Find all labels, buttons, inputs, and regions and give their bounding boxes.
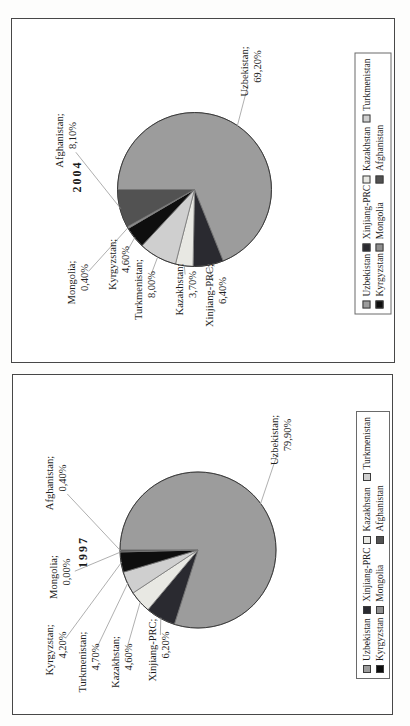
legend-swatch-kazakhstan <box>362 535 370 543</box>
legend-item-afghanistan: Afghanistan <box>374 485 384 543</box>
legend-swatch-turkmenistan <box>363 115 371 123</box>
legend-item-kazakhstan: Kazakhstan <box>362 125 372 183</box>
slice-label-kazakhstan: Kazakhstan;4,60% <box>110 636 135 688</box>
slice-value: 4,70% <box>90 631 103 692</box>
label-leader-line <box>74 551 120 570</box>
slice-label-afghanistan: Afghanistan;0,40% <box>44 455 69 509</box>
legend-label: Afghanistan <box>374 485 384 531</box>
legend: UzbekistanXinjiang-PRCKazakhstanTurkmeni… <box>356 411 390 679</box>
legend-item-mongolia: Mongolia <box>374 547 384 613</box>
legend-label: Mongolia <box>374 564 384 601</box>
legend-item-uzbekistan: Uzbekistan <box>362 253 372 309</box>
slice-label-kazakhstan: Kazakhstan;3,70% <box>174 264 199 316</box>
slice-name: Mongolia; <box>66 261 79 305</box>
slice-label-uzbekistan: Uzbekistan;69,20% <box>239 46 264 96</box>
legend-label: Kyrgyzstan <box>375 253 385 297</box>
legend-swatch-kazakhstan <box>363 175 371 183</box>
legend-item-uzbekistan: Uzbekistan <box>361 617 371 673</box>
legend-label: Uzbekistan <box>362 254 372 297</box>
figure-page: 2004Uzbekistan;69,20%Xinjiang-PRC;6,40%K… <box>0 0 410 726</box>
slice-value: 0,40% <box>79 261 92 305</box>
slice-label-turkmenistan: Turkmenistan;8,00% <box>133 259 158 320</box>
legend-label: Xinjiang-PRC <box>361 547 371 601</box>
slice-value: 3,70% <box>187 264 200 316</box>
chart-canvas: 2004Uzbekistan;69,20%Xinjiang-PRC;6,40%K… <box>11 18 395 363</box>
legend-label: Kazakhstan <box>362 127 372 171</box>
chart-canvas: 1997Uzbekistan;79,90%Xinjiang-PRC;6,20%K… <box>12 374 393 715</box>
legend-label: Afghanistan <box>375 125 385 171</box>
slice-label-kyrgyzstan: Kyrgyzstan;4,20% <box>44 624 69 675</box>
slice-name: Kazakhstan; <box>174 264 187 316</box>
legend-label: Turkmenistan <box>361 417 371 469</box>
legend-swatch-afghanistan <box>375 535 383 543</box>
slice-label-xinjiang-prc: Xinjiang-PRC;6,20% <box>147 618 172 681</box>
legend-swatch-uzbekistan <box>363 301 371 309</box>
slice-value: 69,20% <box>252 46 265 96</box>
slice-label-mongolia: Mongolia;0,00% <box>48 555 73 599</box>
slice-name: Uzbekistan; <box>269 414 282 464</box>
legend-item-afghanistan: Afghanistan <box>375 125 385 183</box>
legend-item-mongolia: Mongolia <box>375 185 385 251</box>
slice-value: 4,60% <box>123 636 136 688</box>
legend-swatch-turkmenistan <box>362 473 370 481</box>
slice-value: 0,00% <box>61 555 74 599</box>
slice-name: Xinjiang-PRC; <box>147 618 160 681</box>
slice-label-afghanistan: Afghanistan;8,10% <box>54 113 79 167</box>
pie-svg <box>11 18 395 363</box>
slice-name: Afghanistan; <box>44 455 57 509</box>
slice-label-turkmenistan: Turkmenistan;4,70% <box>77 631 102 692</box>
slice-name: Turkmenistan; <box>77 631 90 692</box>
slice-value: 4,20% <box>57 624 70 675</box>
slice-name: Xinjiang-PRC; <box>204 264 217 327</box>
legend-item-turkmenistan: Turkmenistan <box>361 417 371 481</box>
slice-name: Kazakhstan; <box>110 636 123 688</box>
legend-item-turkmenistan: Turkmenistan <box>362 59 372 123</box>
slice-name: Mongolia; <box>48 555 61 599</box>
legend-label: Xinjiang-PRC <box>362 185 372 239</box>
legend-swatch-mongolia <box>376 243 384 251</box>
slice-label-mongolia: Mongolia;0,40% <box>66 261 91 305</box>
legend-item-xinjiang-prc: Xinjiang-PRC <box>361 547 371 613</box>
legend-swatch-xinjiang-prc <box>362 605 370 613</box>
slice-name: Kyrgyzstan; <box>107 239 120 290</box>
legend-item-kazakhstan: Kazakhstan <box>361 485 371 543</box>
slice-label-xinjiang-prc: Xinjiang-PRC;6,40% <box>204 264 229 327</box>
legend-item-kyrgyzstan: Kyrgyzstan <box>374 617 384 673</box>
legend-swatch-uzbekistan <box>362 665 370 673</box>
slice-value: 0,40% <box>57 455 70 509</box>
slice-name: Turkmenistan; <box>133 259 146 320</box>
slice-name: Uzbekistan; <box>239 46 252 96</box>
legend-swatch-afghanistan <box>376 175 384 183</box>
slice-value: 6,20% <box>160 618 173 681</box>
pie-chart-panel-2004: 2004Uzbekistan;69,20%Xinjiang-PRC;6,40%K… <box>11 18 395 363</box>
legend-swatch-mongolia <box>375 605 383 613</box>
legend-swatch-kyrgyzstan <box>375 665 383 673</box>
slice-label-kyrgyzstan: Kyrgyzstan;4,60% <box>107 239 132 290</box>
label-leader-line <box>76 152 121 208</box>
label-leader-line <box>65 562 121 638</box>
legend-item-kyrgyzstan: Kyrgyzstan <box>375 253 385 309</box>
label-leader-line <box>67 493 121 550</box>
slice-name: Afghanistan; <box>54 113 67 167</box>
pie-chart-panel-1997: 1997Uzbekistan;79,90%Xinjiang-PRC;6,20%K… <box>12 374 393 715</box>
slice-value: 8,00% <box>146 259 159 320</box>
slice-value: 4,60% <box>120 239 133 290</box>
slice-label-uzbekistan: Uzbekistan;79,90% <box>269 414 294 464</box>
legend-label: Kazakhstan <box>361 487 371 531</box>
slice-name: Kyrgyzstan; <box>44 624 57 675</box>
legend-item-xinjiang-prc: Xinjiang-PRC <box>362 185 372 251</box>
legend-swatch-xinjiang-prc <box>363 243 371 251</box>
slice-value: 79,90% <box>282 414 295 464</box>
legend-label: Kyrgyzstan <box>374 617 384 661</box>
legend: UzbekistanXinjiang-PRCKazakhstanTurkmeni… <box>355 53 392 315</box>
legend-swatch-kyrgyzstan <box>376 301 384 309</box>
slice-value: 8,10% <box>67 113 80 167</box>
legend-label: Turkmenistan <box>362 59 372 111</box>
slice-value: 6,40% <box>217 264 230 327</box>
legend-label: Uzbekistan <box>361 618 371 661</box>
legend-label: Mongolia <box>375 202 385 239</box>
